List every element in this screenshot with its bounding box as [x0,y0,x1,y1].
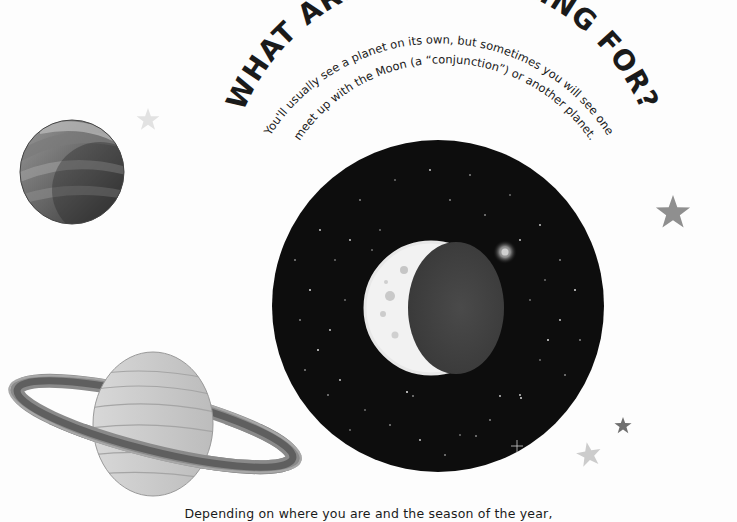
crescent-moon [365,242,504,374]
star-icon [614,417,631,433]
footer-text: Depending on where you are and the seaso… [0,506,737,521]
star-icon [575,440,603,467]
ringed-planet [1,352,308,496]
star-icon [137,108,160,130]
night-sky-circle [272,140,604,472]
illustration-canvas: WHAT ARE YOU LOOKING FOR? You'll usually… [0,0,737,522]
star-icon [656,195,690,228]
banded-planet [20,120,148,238]
